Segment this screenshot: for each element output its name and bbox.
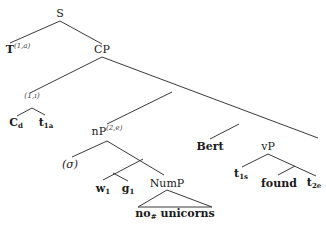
node-vp-label: vP [261, 140, 275, 153]
node-vp: vP [261, 141, 275, 152]
node-sigma: (σ) [62, 159, 78, 170]
node-t-2e: t2e [307, 177, 321, 189]
node-t: T(1,a) [6, 43, 31, 55]
no-subscript: # [151, 212, 157, 221]
node-bert-label: Bert [196, 140, 223, 153]
no-label: no [135, 207, 150, 220]
node-sigma-label: (σ) [62, 158, 78, 171]
node-np-label: nP [92, 125, 107, 138]
node-g-1-subscript: 1 [129, 187, 134, 196]
node-t-1a: t1a [39, 117, 54, 129]
node-nump-label: NumP [150, 177, 185, 190]
node-index: (1,ı) [24, 92, 39, 100]
unicorns-label: unicorns [160, 207, 214, 220]
node-s: S [56, 8, 64, 19]
node-bert: Bert [196, 141, 223, 152]
node-c-d-label: C [9, 116, 18, 129]
node-t-1s: t1s [234, 168, 248, 180]
node-t-superscript: (1,a) [14, 42, 30, 50]
node-np: nP(2,e) [92, 125, 123, 137]
node-found-label: found [261, 177, 297, 190]
node-g-1: g1 [122, 183, 135, 195]
node-cp-label: CP [94, 43, 110, 56]
node-c-d-subscript: d [18, 121, 23, 130]
node-cp: CP [94, 44, 110, 55]
node-w-1-subscript: 1 [105, 187, 110, 196]
node-found: found [261, 178, 297, 189]
node-np-superscript: (2,e) [106, 124, 122, 132]
tree-edges [0, 0, 326, 228]
node-t-1s-subscript: 1s [239, 172, 248, 181]
node-nump: NumP [150, 178, 185, 189]
node-t-label: T [6, 43, 14, 56]
node-t-2e-subscript: 2e [312, 181, 321, 190]
node-t-1a-subscript: 1a [44, 121, 53, 130]
node-c-d: Cd [9, 117, 23, 129]
node-w-1: w1 [96, 183, 110, 195]
node-index-label: (1,ı) [24, 91, 39, 100]
node-s-label: S [56, 7, 64, 20]
node-g-1-label: g [122, 182, 130, 195]
node-nump-content: no# unicorns [135, 208, 214, 220]
